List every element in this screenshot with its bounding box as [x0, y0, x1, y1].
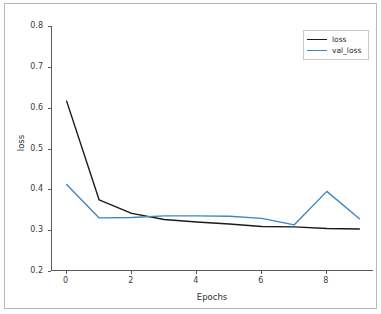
y-tick-label: 0.8 — [15, 22, 43, 30]
chart-legend: loss val_loss — [303, 30, 369, 60]
figure-frame: 0.20.30.40.50.60.70.802468 loss Epochs l… — [0, 0, 381, 314]
y-tick-label: 0.4 — [15, 185, 43, 193]
figure-border: 0.20.30.40.50.60.70.802468 loss Epochs l… — [4, 3, 377, 309]
x-tick-label: 4 — [186, 277, 206, 285]
x-tick-mark — [196, 271, 197, 274]
y-tick-label: 0.3 — [15, 226, 43, 234]
legend-item-loss: loss — [307, 34, 364, 45]
legend-label-val-loss: val_loss — [332, 47, 361, 55]
x-tick-label: 8 — [316, 277, 336, 285]
y-tick-label: 0.2 — [15, 267, 43, 275]
legend-item-val-loss: val_loss — [307, 45, 364, 56]
plot-area — [51, 26, 373, 271]
y-axis-title: loss — [16, 123, 26, 163]
legend-swatch-loss — [307, 39, 327, 40]
x-tick-mark — [326, 271, 327, 274]
x-tick-mark — [131, 271, 132, 274]
line-loss — [67, 101, 360, 229]
x-tick-label: 2 — [121, 277, 141, 285]
y-tick-label: 0.6 — [15, 104, 43, 112]
y-tick-label: 0.7 — [15, 63, 43, 71]
x-tick-mark — [66, 271, 67, 274]
x-tick-label: 6 — [251, 277, 271, 285]
legend-swatch-val-loss — [307, 50, 327, 51]
y-tick-mark — [48, 271, 51, 272]
series-lines — [52, 26, 374, 271]
x-tick-label: 0 — [56, 277, 76, 285]
legend-label-loss: loss — [332, 36, 347, 44]
x-tick-mark — [261, 271, 262, 274]
x-axis-title: Epochs — [51, 292, 373, 302]
